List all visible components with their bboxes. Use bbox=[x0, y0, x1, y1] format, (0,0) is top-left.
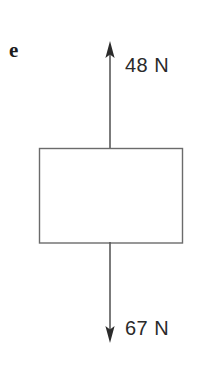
force-diagram-figure: e 48 N 67 N bbox=[0, 0, 216, 388]
force-diagram-svg bbox=[0, 0, 216, 388]
downward-force-arrow bbox=[105, 242, 114, 343]
upward-force-label: 48 N bbox=[125, 55, 169, 75]
part-label: e bbox=[9, 40, 18, 61]
upward-force-arrow bbox=[105, 41, 114, 149]
body-rectangle bbox=[40, 149, 183, 244]
downward-force-label: 67 N bbox=[125, 318, 169, 338]
